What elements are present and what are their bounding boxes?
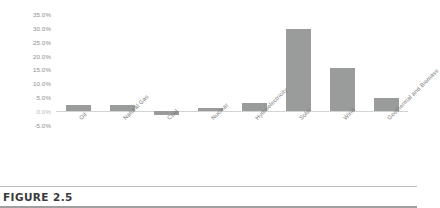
bar-slot — [58, 14, 97, 111]
y-axis-tick-label: 20.0% — [33, 52, 51, 59]
caption-rule-bottom — [0, 206, 417, 208]
bar-slot — [322, 14, 361, 111]
y-axis-tick-label: 30.0% — [33, 24, 51, 31]
y-axis-tick-label: 25.0% — [33, 38, 51, 45]
figure-caption-block: FIGURE 2.5 — [0, 186, 417, 208]
bar-slot — [146, 14, 185, 111]
y-axis-tick-label: 15.0% — [33, 66, 51, 73]
bar-solar — [286, 29, 311, 111]
y-axis-tick-label: -5.0% — [34, 121, 51, 128]
bar-chart: 35.0% 30.0% 25.0% 20.0% 15.0% 10.0% 5.0%… — [0, 0, 417, 176]
x-axis-tick-label: Oil — [78, 111, 88, 121]
bar-slot — [278, 14, 317, 111]
x-axis-labels: Oil Natural Gas Coal Nuclear Hydroelectr… — [56, 112, 408, 176]
bar-slot — [366, 14, 405, 111]
y-axis-tick-label: 35.0% — [33, 11, 51, 18]
y-axis-tick-label: 5.0% — [36, 94, 51, 101]
bar-slot — [234, 14, 273, 111]
y-axis-tick-label: 0.0% — [36, 108, 51, 115]
bar-wind — [330, 68, 355, 111]
y-axis-tick-label: 10.0% — [33, 80, 51, 87]
bar-series — [56, 14, 408, 111]
bar-oil — [66, 105, 91, 111]
plot-area: 35.0% 30.0% 25.0% 20.0% 15.0% 10.0% 5.0%… — [56, 14, 408, 111]
bar-slot — [102, 14, 141, 111]
bar-slot — [190, 14, 229, 111]
figure-caption: FIGURE 2.5 — [0, 187, 417, 206]
